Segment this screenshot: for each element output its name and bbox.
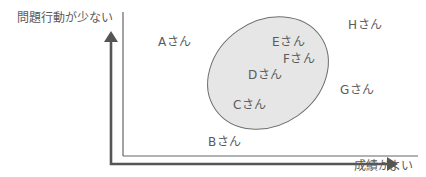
student-label-g: Gさん — [340, 80, 375, 97]
student-label-c: Cさん — [233, 95, 267, 112]
student-label-b: Bさん — [208, 132, 242, 149]
y-axis-arrow-icon — [104, 31, 118, 42]
student-label-a: Aさん — [158, 32, 192, 49]
x-axis-label: 成績がよい — [354, 156, 413, 173]
student-label-e: Eさん — [272, 32, 305, 49]
student-label-d: Dさん — [248, 65, 283, 82]
y-axis-label: 問題行動が少ない — [17, 8, 113, 25]
student-label-h: Hさん — [348, 15, 383, 32]
student-label-f: Fさん — [283, 49, 315, 66]
